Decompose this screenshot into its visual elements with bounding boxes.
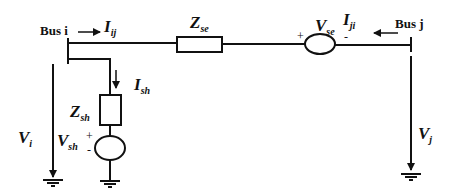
vsh-source-icon bbox=[95, 136, 125, 160]
ground-icon-vj bbox=[401, 174, 421, 180]
shunt-branch-line bbox=[68, 59, 110, 95]
ish-label: Ish bbox=[133, 75, 151, 96]
vse-plus-sign: + bbox=[297, 29, 304, 43]
vsh-plus-sign: + bbox=[86, 129, 93, 143]
iij-label: Iij bbox=[103, 17, 116, 38]
zsh-impedance-box bbox=[100, 95, 121, 125]
vi-label: Vi bbox=[18, 128, 32, 149]
vsh-minus-sign: - bbox=[87, 143, 91, 157]
circuit-svg: Bus i Bus j Iij Iji Ish Zse Zsh Vse + - … bbox=[0, 0, 455, 195]
zse-impedance-box bbox=[177, 37, 222, 52]
ground-icon-vi bbox=[43, 180, 63, 186]
vsh-label: Vsh bbox=[57, 131, 78, 152]
vse-source-icon bbox=[305, 34, 335, 54]
zse-label: Zse bbox=[189, 13, 209, 34]
ground-symbols bbox=[43, 174, 421, 187]
zsh-label: Zsh bbox=[69, 102, 90, 123]
iji-label: Iji bbox=[342, 10, 355, 31]
vse-minus-sign: - bbox=[344, 30, 348, 44]
ground-icon-vsh bbox=[100, 181, 120, 187]
vse-label: Vse bbox=[315, 16, 335, 37]
upfc-circuit-diagram: Bus i Bus j Iij Iji Ish Zse Zsh Vse + - … bbox=[0, 0, 455, 195]
bus-j-label: Bus j bbox=[395, 16, 424, 31]
vj-label: Vj bbox=[418, 124, 432, 145]
bus-i-label: Bus i bbox=[40, 23, 68, 38]
